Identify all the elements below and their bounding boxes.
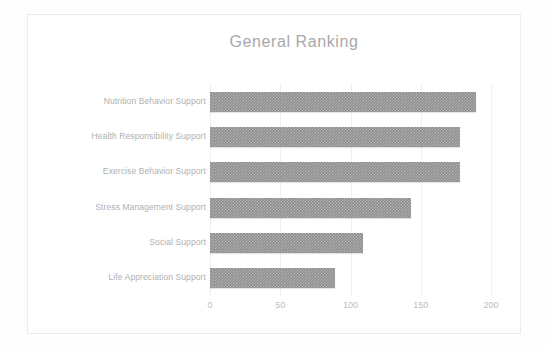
bar — [210, 162, 460, 182]
category-label: Life Appreciation Support — [30, 272, 206, 282]
y-axis-category-labels: Nutrition Behavior SupportHealth Respons… — [30, 84, 206, 296]
category-label: Stress Management Support — [30, 202, 206, 212]
chart-figure: General Ranking Nutrition Behavior Suppo… — [0, 0, 548, 349]
x-tick-label: 200 — [483, 300, 498, 310]
bar-series — [210, 84, 491, 296]
category-label: Nutrition Behavior Support — [30, 96, 206, 106]
chart-title: General Ranking — [0, 33, 548, 51]
x-tick-label: 100 — [343, 300, 358, 310]
bar-row — [210, 155, 491, 190]
category-label: Exercise Behavior Support — [30, 166, 206, 176]
x-tick-label: 150 — [413, 300, 428, 310]
category-label: Social Support — [30, 237, 206, 247]
bar-row — [210, 261, 491, 296]
bar-row — [210, 225, 491, 260]
bar — [210, 268, 335, 288]
plot-area — [210, 84, 491, 296]
bar — [210, 127, 460, 147]
x-tick-label: 50 — [275, 300, 285, 310]
bar — [210, 198, 411, 218]
category-label: Health Responsibility Support — [30, 131, 206, 141]
gridline-200 — [491, 84, 492, 296]
x-axis-tick-labels: 050100150200 — [210, 300, 491, 318]
bar-row — [210, 190, 491, 225]
bar — [210, 233, 363, 253]
bar-row — [210, 119, 491, 154]
x-tick-label: 0 — [207, 300, 212, 310]
bar-row — [210, 84, 491, 119]
bar — [210, 92, 476, 112]
